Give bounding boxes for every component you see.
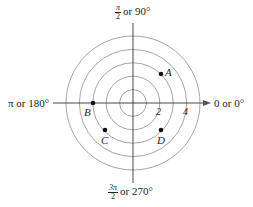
axis-label-bottom: 3π 2 or 270° bbox=[108, 184, 153, 201]
fraction-pi-over-2: π 2 bbox=[115, 4, 121, 21]
axis-label-bottom-text: or 270° bbox=[120, 185, 153, 197]
point-label-a: A bbox=[165, 67, 172, 78]
point-b bbox=[91, 101, 96, 106]
point-label-c: C bbox=[101, 135, 108, 146]
point-label-d: D bbox=[157, 135, 165, 146]
point-d bbox=[159, 128, 164, 133]
point-a bbox=[159, 72, 164, 77]
fraction-3pi-over-2: 3π 2 bbox=[108, 184, 118, 201]
point-label-b: B bbox=[84, 107, 91, 118]
axis-label-top: π 2 or 90° bbox=[115, 4, 150, 21]
points bbox=[91, 72, 164, 133]
axis-label-top-text: or 90° bbox=[123, 5, 150, 17]
point-c bbox=[103, 128, 108, 133]
tick-label-4: 4 bbox=[183, 107, 188, 117]
arrow-right-icon bbox=[203, 100, 211, 106]
axis-label-right: 0 or 0° bbox=[214, 98, 244, 109]
tick-label-2: 2 bbox=[156, 107, 161, 117]
axis-label-left: π or 180° bbox=[8, 98, 49, 109]
